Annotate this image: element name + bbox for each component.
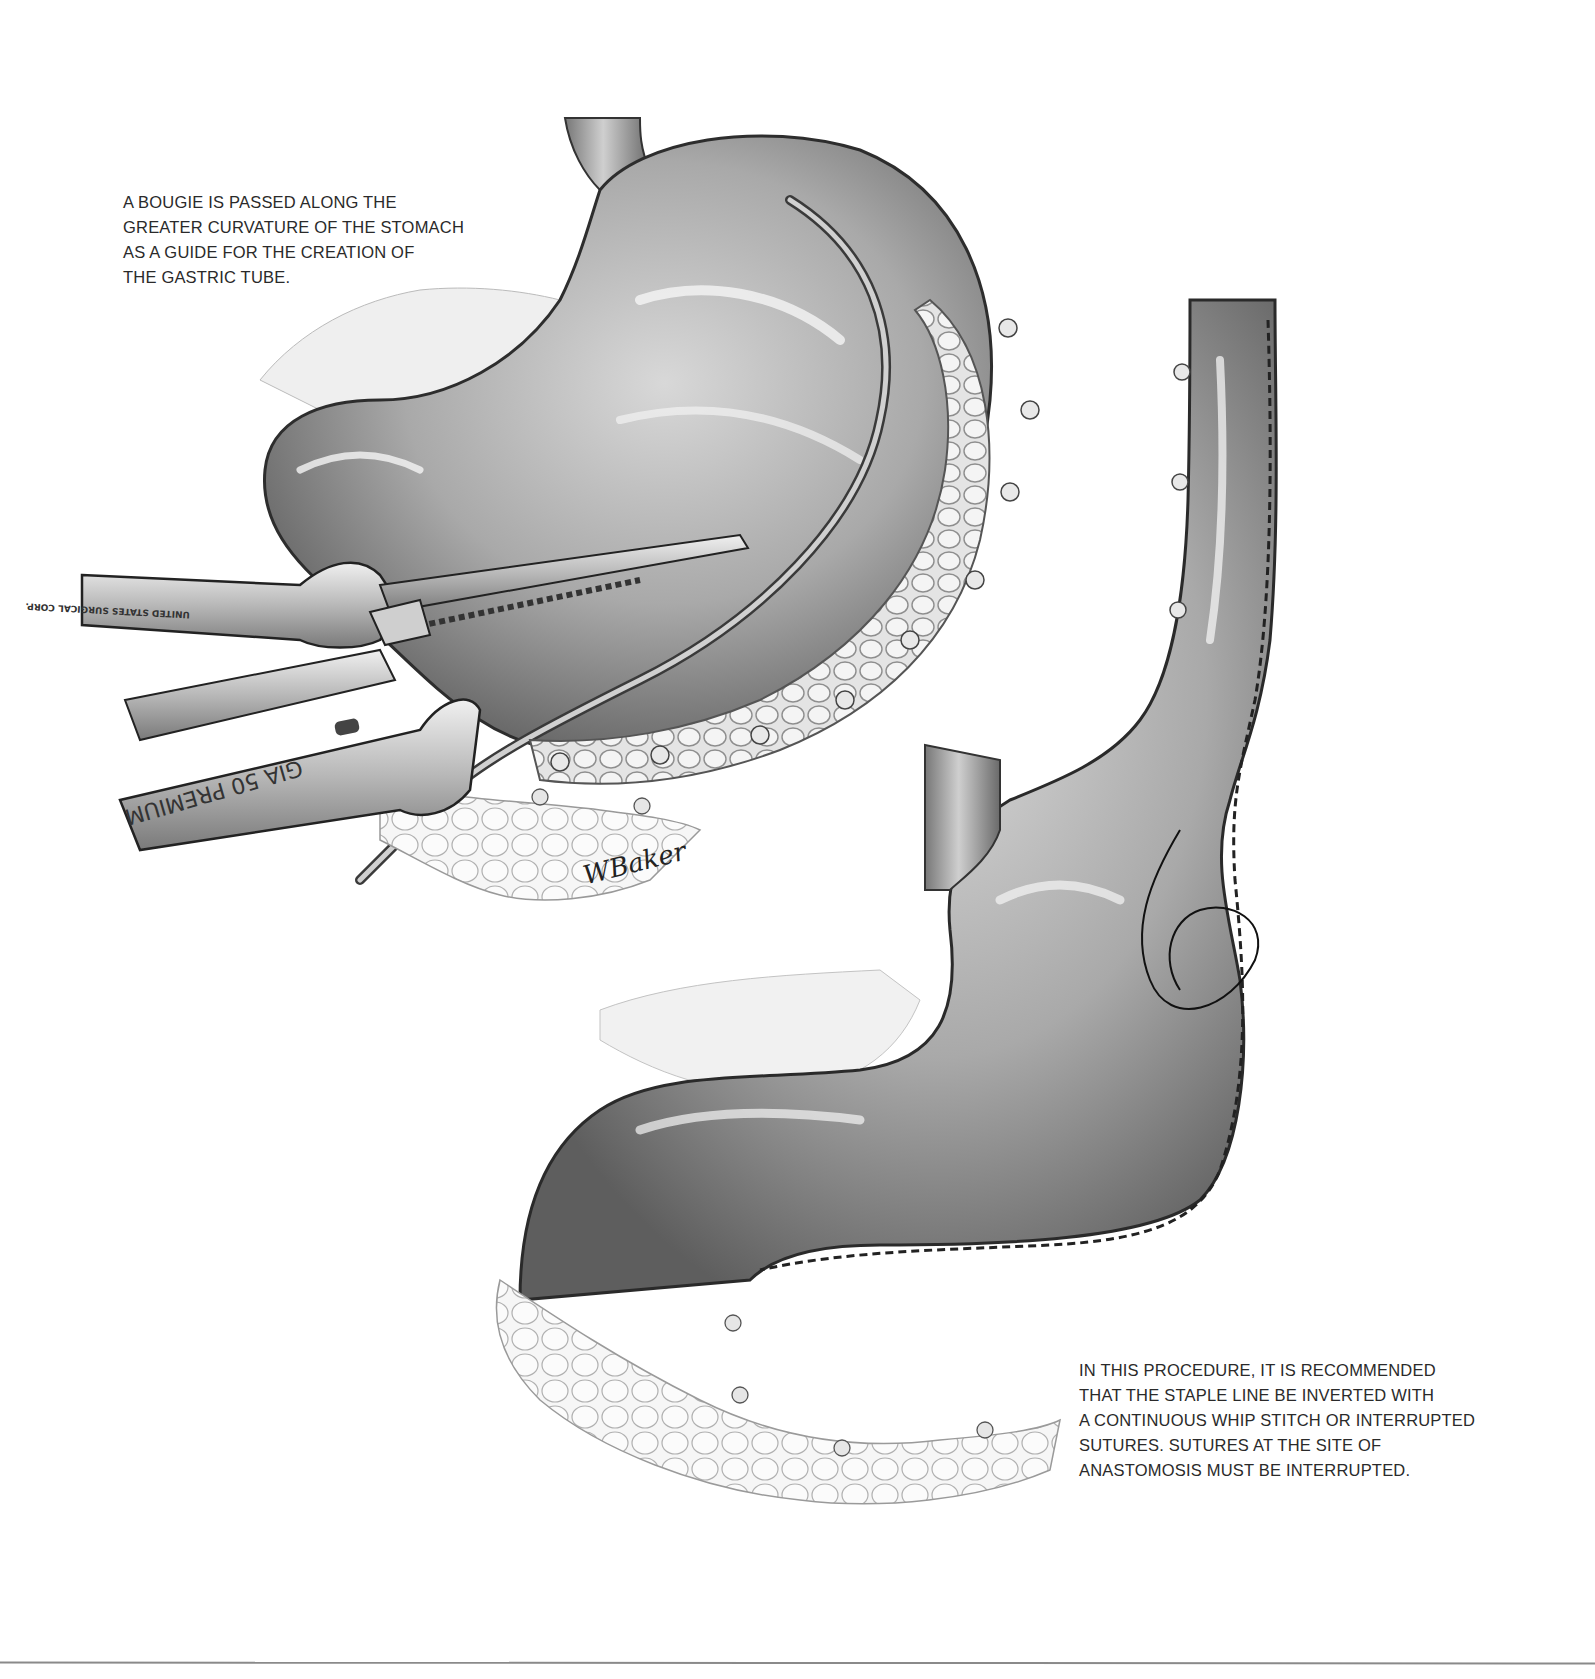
caption-line: THE GASTRIC TUBE. [123, 265, 464, 290]
caption-line: THAT THE STAPLE LINE BE INVERTED WITH [1079, 1383, 1475, 1408]
caption-bougie: A BOUGIE IS PASSED ALONG THE GREATER CUR… [123, 190, 464, 290]
caption-line: ANASTOMOSIS MUST BE INTERRUPTED. [1079, 1458, 1475, 1483]
caption-staple-line: IN THIS PROCEDURE, IT IS RECOMMENDED THA… [1079, 1358, 1475, 1483]
caption-line: A CONTINUOUS WHIP STITCH OR INTERRUPTED [1079, 1408, 1475, 1433]
caption-line: A BOUGIE IS PASSED ALONG THE [123, 190, 464, 215]
caption-line: SUTURES. SUTURES AT THE SITE OF [1079, 1433, 1475, 1458]
caption-line: GREATER CURVATURE OF THE STOMACH [123, 215, 464, 240]
caption-line: IN THIS PROCEDURE, IT IS RECOMMENDED [1079, 1358, 1475, 1383]
caption-line: AS A GUIDE FOR THE CREATION OF [123, 240, 464, 265]
